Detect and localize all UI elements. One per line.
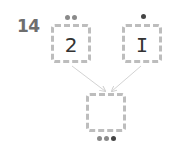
left-box-value: 2	[54, 33, 88, 57]
dot	[97, 136, 102, 141]
result-box-dots	[97, 136, 116, 141]
dot	[104, 136, 109, 141]
arrow-left-to-result	[72, 66, 105, 91]
diagram-stage: 14 2 I	[0, 0, 177, 160]
left-box[interactable]: 2	[51, 24, 91, 63]
right-box-value: I	[125, 33, 159, 57]
dot	[141, 14, 146, 19]
right-box[interactable]: I	[122, 24, 162, 63]
left-box-dots	[65, 15, 77, 20]
result-box[interactable]	[86, 93, 126, 132]
dot	[72, 15, 77, 20]
dot	[111, 136, 116, 141]
arrow-right-to-result	[112, 66, 141, 91]
dot	[65, 15, 70, 20]
right-box-dots	[141, 14, 146, 19]
